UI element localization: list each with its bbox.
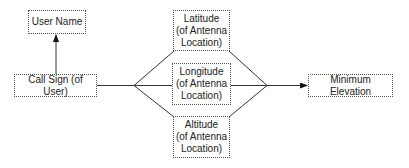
node-latitude-label: Latitude (of Antenna Location) [176, 13, 227, 49]
node-call-sign: Call Sign (of User) [14, 74, 97, 97]
node-longitude-label: Longitude (of Antenna Location) [176, 66, 227, 102]
edge-junction-to-latitude [134, 51, 174, 86]
node-user-name-label: User Name [32, 16, 83, 28]
node-altitude-label: Altitude (of Antenna Location) [176, 119, 227, 155]
node-longitude: Longitude (of Antenna Location) [172, 63, 231, 105]
node-altitude: Altitude (of Antenna Location) [173, 116, 230, 158]
node-minimum-elevation-label: Minimum Elevation [309, 74, 392, 98]
node-call-sign-label: Call Sign (of User) [15, 74, 96, 98]
edge-latitude-to-junction [229, 51, 267, 86]
node-minimum-elevation: Minimum Elevation [308, 74, 393, 97]
node-user-name: User Name [28, 10, 86, 34]
edge-altitude-to-junction [229, 86, 267, 118]
edge-junction-to-altitude [134, 86, 174, 118]
node-latitude: Latitude (of Antenna Location) [173, 10, 230, 51]
